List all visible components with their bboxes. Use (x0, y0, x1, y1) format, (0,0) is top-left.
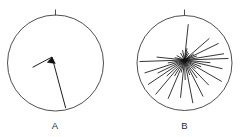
panel-b: B (120, 0, 241, 137)
spoke-b-15 (185, 60, 209, 85)
spoke-b-25 (156, 60, 185, 94)
figure-root: A B (0, 0, 241, 137)
panel-a: A (0, 0, 120, 137)
spoke-group-b (140, 24, 229, 103)
panel-label-b: B (181, 120, 188, 131)
spoke-group-a (33, 57, 66, 108)
spoke-a-1 (52, 57, 66, 108)
arrowhead-a (47, 57, 55, 64)
circle-outline-a (8, 15, 104, 111)
panel-label-a: A (52, 120, 59, 131)
